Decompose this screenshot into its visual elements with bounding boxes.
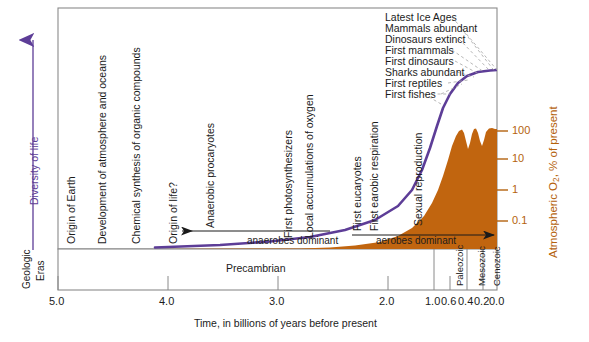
event-anaerobic-procaryotes: Anaerobic procaryotes [205,123,216,228]
o2-label-sub: 2 [552,177,561,182]
o2-tick-1: 1 [512,184,518,195]
axis-label-diversity-of-life: Diversity of life [29,137,40,205]
annotation-sharks-abundant: Sharks abundant [385,67,464,78]
era-mesozoic: Mesozoic [477,246,487,286]
o2-label-main: Atmospheric O [547,182,559,258]
x-axis-title: Time, in billions of years before presen… [194,318,377,329]
x-tick-3.0: 3.0 [269,296,284,307]
event-chemical-synthesis: Chemical synthesis of organic compounds [131,47,142,244]
annotation-first-mammals: First mammals [385,45,454,56]
o2-tick-10: 10 [512,153,524,164]
annotation-first-reptiles: First reptiles [385,78,442,89]
o2-tick-0.1: 0.1 [512,215,527,226]
axis-label-atmospheric-o2: Atmospheric O2, % of present [548,106,561,258]
x-tick-1.0: 1.0 [425,296,440,307]
geologic-time-chart [0,0,589,342]
x-tick-0.4: 0.4 [458,296,473,307]
x-tick-5.0: 5.0 [49,296,64,307]
x-tick-0.2: 0.2 [474,296,489,307]
event-local-accumulations-oxygen: Local accumulations of oxygen [304,94,315,238]
era-cenozoic: Cenozoic [492,246,502,286]
event-first-photosynthesizers: First photosynthesizers [283,130,294,238]
o2-label-tail: , % of present [547,106,559,177]
event-first-eucaryotes: First eucaryotes [352,156,363,231]
event-sexual-reproduction: Sexual reproduction [413,133,424,226]
x-tick-0.6: 0.6 [441,296,456,307]
event-origin-of-earth: Origin of Earth [66,176,77,244]
geologic-eras-line1: Geologic [22,250,33,289]
annotation-mammals-abundant: Mammals abundant [385,23,477,34]
event-first-aerobic-respiration: First earobic respiration [369,121,380,231]
annotation-first-dinosaurs: First dinosaurs [385,56,454,67]
event-origin-of-life: Origin of life? [168,182,179,244]
annotation-latest-ice-ages: Latest Ice Ages [385,12,457,23]
x-tick-0.0: 0.0 [489,296,504,307]
band-anaerobes-dominant: anaerobes dominant [247,236,338,246]
band-aerobes-dominant: aerobes dominant [376,236,456,246]
era-paleozoic: Paleozoic [455,245,465,286]
event-development-atmosphere: Development of atmosphere and oceans [97,55,108,244]
x-tick-2.0: 2.0 [379,296,394,307]
geologic-eras-line2: Eras [36,260,47,281]
o2-tick-100: 100 [512,125,530,136]
o2-axis-ticks [497,131,508,221]
era-precambrian: Precambrian [226,263,286,274]
x-tick-4.0: 4.0 [159,296,174,307]
annotation-dinosaurs-extinct: Dinosaurs extinct [385,34,466,45]
annotation-first-fishes: First fishes [385,89,436,100]
